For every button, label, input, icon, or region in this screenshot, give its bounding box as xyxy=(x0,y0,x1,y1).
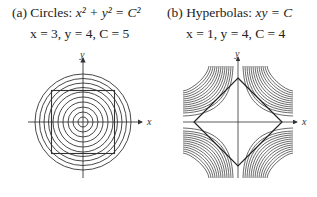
diagrams: x y xyxy=(0,0,317,197)
panel-a-plot xyxy=(28,58,142,178)
panel-b-plot xyxy=(183,57,297,178)
panel-b-x-label: x xyxy=(301,116,307,127)
panel-a-y-label: y xyxy=(79,49,85,60)
panel-a-x-label: x xyxy=(146,116,152,127)
panel-b-y-label: y xyxy=(234,48,240,59)
